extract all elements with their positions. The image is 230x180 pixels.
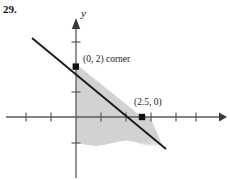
point-marker-0-2 xyxy=(73,63,79,69)
annotation-corner-0-2: (0, 2) corner xyxy=(83,54,131,65)
annotation-point-2p5-0: (2.5, 0) xyxy=(134,97,162,108)
figure-panel: 29. xyxy=(0,0,230,180)
y-axis-arrow-icon xyxy=(72,18,80,29)
point-marker-2p5-0 xyxy=(139,114,145,120)
coordinate-plot: y (0, 2) corner (2.5, 0) xyxy=(0,0,230,180)
x-axis-arrow-icon xyxy=(219,113,227,122)
y-axis-label: y xyxy=(80,7,86,19)
